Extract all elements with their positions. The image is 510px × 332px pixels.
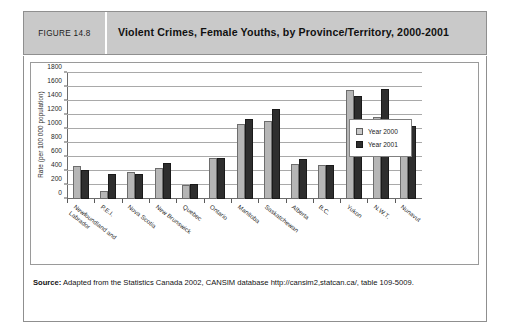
- figure-title: Violent Crimes, Female Youths, by Provin…: [107, 12, 486, 54]
- source-text: Adapted from the Statistics Canada 2002,…: [61, 278, 413, 287]
- bar-group[interactable]: [67, 73, 94, 199]
- bar-2001[interactable]: [245, 119, 253, 200]
- x-axis-label: Quebec: [181, 203, 203, 222]
- bar-2000[interactable]: [264, 121, 272, 199]
- x-axis-label: Alberta: [290, 203, 310, 221]
- y-axis-tick-label: 400: [51, 161, 62, 168]
- legend-label-2000: Year 2000: [368, 128, 398, 135]
- y-axis-title-text: Rate (per 100 000 population): [37, 91, 44, 178]
- legend-swatch-icon-2001: [356, 141, 363, 148]
- x-axis-label: Nunavut: [400, 203, 423, 223]
- y-axis-tick-label: 200: [51, 175, 62, 182]
- chart-frame: Rate (per 100 000 population) 0200400600…: [30, 62, 479, 265]
- x-axis-label: N.W.T.: [372, 203, 391, 220]
- x-axis-label: Yukon: [345, 203, 363, 220]
- bar-2000[interactable]: [73, 166, 81, 199]
- y-axis-tick-label: 800: [51, 133, 62, 140]
- legend-label-2001: Year 2001: [368, 141, 398, 148]
- y-axis-tick-label: 1800: [47, 63, 62, 70]
- bar-2001[interactable]: [81, 170, 89, 199]
- bar-2001[interactable]: [163, 163, 171, 199]
- bar-2001[interactable]: [108, 174, 116, 199]
- bar-2001[interactable]: [217, 158, 225, 199]
- x-axis-label: Ontario: [209, 203, 230, 222]
- y-axis-tick-label: 0: [58, 189, 62, 196]
- y-axis-tick-label: 1200: [47, 105, 62, 112]
- x-axis-label: Manitoba: [236, 203, 261, 225]
- figure-body: Rate (per 100 000 population) 0200400600…: [23, 56, 487, 322]
- bar-2001[interactable]: [299, 159, 307, 199]
- bar-group[interactable]: [204, 73, 231, 199]
- x-axis-label: B.C.: [318, 203, 332, 216]
- y-axis-tick-label: 1600: [47, 77, 62, 84]
- bar-group[interactable]: [286, 73, 313, 199]
- y-axis-tick-label: 1000: [47, 119, 62, 126]
- bar-group[interactable]: [149, 73, 176, 199]
- chart-legend: Year 2000 Year 2001: [349, 119, 412, 157]
- bar-2000[interactable]: [155, 168, 163, 200]
- legend-item-year-2000: Year 2000: [356, 125, 405, 138]
- source-label: Source:: [33, 278, 61, 287]
- figure-header: FIGURE 14.8 Violent Crimes, Female Youth…: [23, 11, 487, 55]
- y-axis-tick-label: 1400: [47, 91, 62, 98]
- bar-2000[interactable]: [182, 185, 190, 199]
- bar-2000[interactable]: [318, 165, 326, 199]
- bar-2000[interactable]: [100, 191, 108, 199]
- bar-group[interactable]: [231, 73, 258, 199]
- bar-2000[interactable]: [127, 172, 135, 199]
- x-axis-labels: Newfoundland and LabradorP.E.I.Nova Scot…: [67, 203, 422, 263]
- bar-2000[interactable]: [291, 164, 299, 199]
- bar-2001[interactable]: [272, 109, 280, 199]
- bar-group[interactable]: [122, 73, 149, 199]
- x-axis-label: P.E.I.: [99, 203, 115, 218]
- legend-swatch-icon-2000: [356, 128, 363, 135]
- bar-2000[interactable]: [237, 124, 245, 199]
- x-axis-label: Nova Scotia: [127, 203, 158, 230]
- bar-group[interactable]: [258, 73, 285, 199]
- bar-2001[interactable]: [135, 174, 143, 199]
- bar-group[interactable]: [313, 73, 340, 199]
- bar-group[interactable]: [176, 73, 203, 199]
- bar-2000[interactable]: [209, 158, 217, 199]
- source-note: Source: Adapted from the Statistics Cana…: [33, 277, 472, 289]
- bar-group[interactable]: [94, 73, 121, 199]
- y-axis-tick-label: 600: [51, 147, 62, 154]
- figure-container: FIGURE 14.8 Violent Crimes, Female Youth…: [23, 11, 487, 322]
- bar-2001[interactable]: [190, 184, 198, 199]
- legend-item-year-2001: Year 2001: [356, 138, 405, 151]
- bar-2001[interactable]: [326, 165, 334, 199]
- y-axis-title: Rate (per 100 000 population): [33, 63, 47, 205]
- figure-number-label: FIGURE 14.8: [24, 12, 107, 54]
